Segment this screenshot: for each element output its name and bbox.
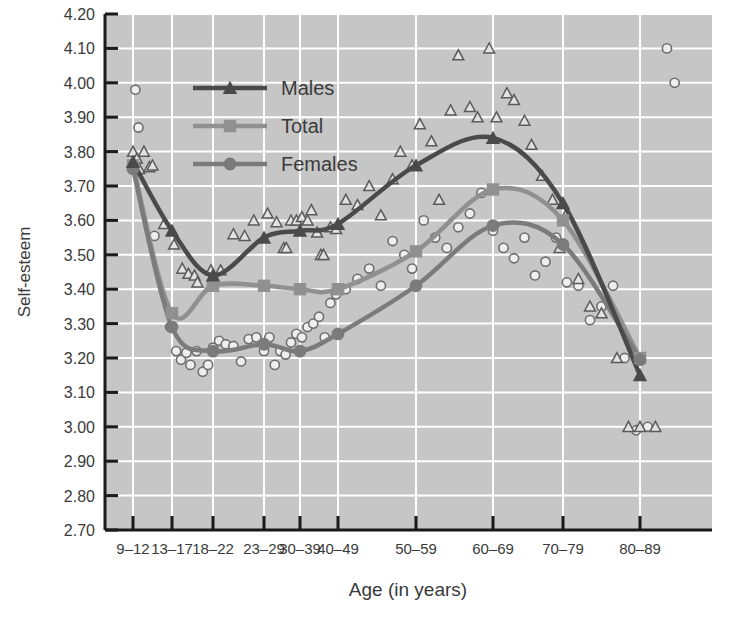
x-axis-tick-label: 13–17 bbox=[151, 540, 193, 557]
y-axis-tick-label: 3.40 bbox=[64, 281, 95, 298]
females-data-point bbox=[314, 312, 323, 321]
females-data-point bbox=[408, 264, 417, 273]
females-data-point bbox=[662, 44, 671, 53]
females-data-point bbox=[530, 271, 539, 280]
females-data-point bbox=[541, 257, 550, 266]
y-axis-tick-label: 4.00 bbox=[64, 75, 95, 92]
legend-marker-total bbox=[224, 120, 236, 132]
marker-females bbox=[166, 321, 179, 334]
females-data-point bbox=[236, 357, 245, 366]
x-axis-tick-label: 60–69 bbox=[472, 540, 514, 557]
y-axis-tick-label: 3.00 bbox=[64, 419, 95, 436]
marker-females bbox=[557, 238, 570, 251]
females-data-point bbox=[442, 243, 451, 252]
legend-marker-females bbox=[224, 158, 237, 171]
females-data-point bbox=[509, 254, 518, 263]
y-axis-tick-label: 3.50 bbox=[64, 247, 95, 264]
legend-label-males: Males bbox=[281, 77, 334, 99]
y-axis-tick-label: 4.10 bbox=[64, 40, 95, 57]
x-axis-tick-label: 18–22 bbox=[192, 540, 234, 557]
females-data-point bbox=[376, 281, 385, 290]
y-axis-tick-label: 3.30 bbox=[64, 316, 95, 333]
females-data-point bbox=[172, 347, 181, 356]
y-axis-tick-label: 3.20 bbox=[64, 350, 95, 367]
females-data-point bbox=[131, 85, 140, 94]
marker-total bbox=[410, 245, 422, 257]
y-axis-tick-label: 2.90 bbox=[64, 453, 95, 470]
y-axis-tick-label: 3.70 bbox=[64, 178, 95, 195]
x-axis-tick-label: 80–89 bbox=[619, 540, 661, 557]
females-data-point bbox=[186, 360, 195, 369]
chart-figure: 2.702.802.903.003.103.203.303.403.503.60… bbox=[0, 0, 733, 624]
y-axis-tick-label: 3.60 bbox=[64, 212, 95, 229]
x-axis-title: Age (in years) bbox=[349, 579, 467, 600]
females-data-point bbox=[585, 316, 594, 325]
marker-females bbox=[487, 219, 500, 232]
marker-total bbox=[332, 283, 344, 295]
x-axis-tick-label: 30–39 bbox=[279, 540, 321, 557]
females-data-point bbox=[203, 360, 212, 369]
marker-females bbox=[634, 353, 647, 366]
females-data-point bbox=[670, 78, 679, 87]
y-axis-tick-label: 2.80 bbox=[64, 488, 95, 505]
x-axis-tick-label: 40–49 bbox=[317, 540, 359, 557]
females-data-point bbox=[326, 298, 335, 307]
legend-label-females: Females bbox=[281, 153, 358, 175]
y-axis-tick-label: 3.90 bbox=[64, 109, 95, 126]
y-axis-tick-label: 3.10 bbox=[64, 384, 95, 401]
females-data-point bbox=[608, 281, 617, 290]
marker-females bbox=[207, 345, 220, 358]
y-axis-tick-label: 4.20 bbox=[64, 6, 95, 23]
females-data-point bbox=[562, 278, 571, 287]
y-axis-title: Self-esteem bbox=[15, 227, 34, 318]
legend-label-total: Total bbox=[281, 115, 323, 137]
females-data-point bbox=[454, 223, 463, 232]
marker-females bbox=[332, 328, 345, 341]
self-esteem-by-age-line-chart: 2.702.802.903.003.103.203.303.403.503.60… bbox=[0, 0, 733, 624]
x-axis-tick-label: 50–59 bbox=[395, 540, 437, 557]
marker-total bbox=[487, 183, 499, 195]
y-axis-tick-labels: 2.702.802.903.003.103.203.303.403.503.60… bbox=[64, 6, 95, 539]
females-data-point bbox=[499, 243, 508, 252]
marker-total bbox=[294, 283, 306, 295]
marker-females bbox=[410, 279, 423, 292]
females-data-point bbox=[419, 216, 428, 225]
females-data-point bbox=[286, 338, 295, 347]
marker-females bbox=[258, 338, 271, 351]
females-data-point bbox=[520, 233, 529, 242]
females-data-point bbox=[270, 360, 279, 369]
marker-total bbox=[557, 214, 569, 226]
y-axis-tick-label: 3.80 bbox=[64, 144, 95, 161]
x-axis-tick-label: 70–79 bbox=[542, 540, 584, 557]
marker-females bbox=[294, 345, 307, 358]
marker-total bbox=[258, 280, 270, 292]
y-axis-tick-label: 2.70 bbox=[64, 522, 95, 539]
females-data-point bbox=[465, 209, 474, 218]
females-data-point bbox=[388, 236, 397, 245]
females-data-point bbox=[134, 123, 143, 132]
females-data-point bbox=[297, 333, 306, 342]
x-axis-tick-labels: 9–1213–1718–2223–2930–3940–4950–5960–697… bbox=[116, 540, 661, 557]
females-data-point bbox=[365, 264, 374, 273]
x-axis-tick-label: 9–12 bbox=[116, 540, 149, 557]
marker-total bbox=[166, 307, 178, 319]
